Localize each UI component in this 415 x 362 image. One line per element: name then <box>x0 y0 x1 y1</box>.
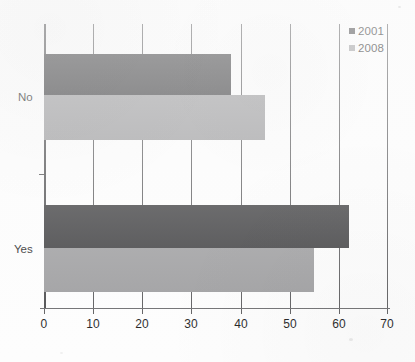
bar-no-2001 <box>44 54 231 95</box>
legend-swatch-icon-2008 <box>349 45 355 51</box>
y-category-label-yes: Yes <box>14 243 54 255</box>
x-tick-label-60: 60 <box>319 317 359 331</box>
x-tick-mark-60 <box>339 309 340 314</box>
legend-item-2001: 2001 <box>349 23 384 38</box>
y-category-label-no: No <box>18 91 58 103</box>
x-tick-label-0: 0 <box>24 317 64 331</box>
bar-yes-2001 <box>44 205 349 248</box>
legend-item-2008: 2008 <box>349 40 384 55</box>
gridline-60 <box>339 24 340 309</box>
y-axis-mid-tick <box>39 174 45 175</box>
gridline-70 <box>387 24 388 309</box>
legend-swatch-icon-2001 <box>349 28 355 34</box>
x-tick-mark-70 <box>387 309 388 314</box>
scan-speck <box>349 338 353 341</box>
bar-no-2008 <box>44 95 265 140</box>
scan-speck <box>398 6 401 8</box>
x-tick-label-50: 50 <box>270 317 310 331</box>
x-tick-mark-30 <box>191 309 192 314</box>
scan-speck <box>60 352 63 354</box>
x-tick-label-30: 30 <box>171 317 211 331</box>
plot-area <box>44 24 388 309</box>
x-tick-label-70: 70 <box>367 317 407 331</box>
bar-chart: 0 10 20 30 40 50 60 70 No Yes 2001 2008 <box>0 0 415 362</box>
x-tick-mark-0 <box>44 309 45 314</box>
x-tick-mark-50 <box>290 309 291 314</box>
x-tick-label-10: 10 <box>73 317 113 331</box>
legend-label-2008: 2008 <box>358 42 384 54</box>
x-tick-label-40: 40 <box>221 317 261 331</box>
bar-yes-2008 <box>44 248 314 292</box>
legend-label-2001: 2001 <box>358 25 384 37</box>
x-tick-mark-40 <box>241 309 242 314</box>
legend: 2001 2008 <box>349 23 384 57</box>
x-tick-mark-20 <box>142 309 143 314</box>
x-tick-label-20: 20 <box>122 317 162 331</box>
x-tick-mark-10 <box>93 309 94 314</box>
